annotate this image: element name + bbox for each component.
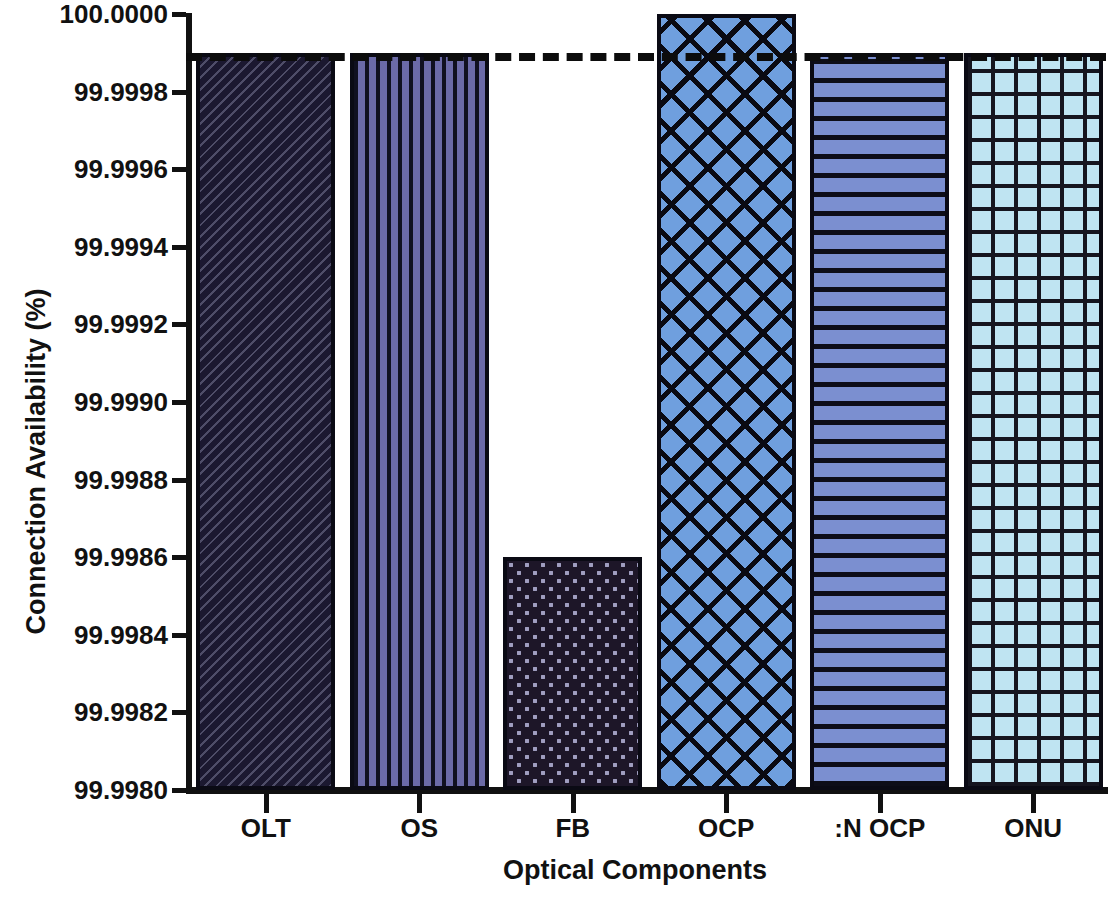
y-axis-tick-mark (172, 788, 186, 793)
x-axis-tick-label-n-ocp: :N OCP (834, 813, 925, 844)
x-axis-tick-mark (878, 794, 883, 813)
y-axis-tick-label: 99.9982 (0, 699, 168, 725)
y-axis-tick-label: 99.9984 (0, 622, 168, 648)
x-axis-tick-label-onu: ONU (1004, 813, 1062, 844)
x-axis-tick-label-fb: FB (555, 813, 590, 844)
y-axis-tick-label: 99.9994 (0, 234, 168, 260)
y-axis-tick-label: 99.9986 (0, 544, 168, 570)
y-axis-tick-label: 99.9990 (0, 389, 168, 415)
x-axis-title: Optical Components (170, 855, 1100, 886)
y-axis-tick-mark (172, 322, 186, 327)
y-axis-tick-mark (172, 400, 186, 405)
y-axis-tick-mark (172, 710, 186, 715)
bar-n-ocp[interactable] (810, 53, 949, 790)
x-axis-tick-label-os: OS (400, 813, 438, 844)
bar-os[interactable] (350, 53, 489, 790)
y-axis-tick-label: 99.9996 (0, 156, 168, 182)
y-axis-tick-mark (172, 12, 186, 17)
y-axis-tick-mark (172, 478, 186, 483)
x-axis-tick-label-olt: OLT (241, 813, 291, 844)
y-axis-tick-label: 99.9988 (0, 467, 168, 493)
x-axis-tick-label-ocp: OCP (698, 813, 754, 844)
plot-area (186, 12, 1106, 793)
y-axis-tick-mark (172, 90, 186, 95)
y-axis-tick-label: 99.9980 (0, 777, 168, 803)
x-axis-tick-mark (724, 794, 729, 813)
y-axis-tick-mark (172, 167, 186, 172)
x-axis-tick-mark (264, 794, 269, 813)
y-axis-tick-labels: 100.000099.999899.999699.999499.999299.9… (0, 0, 168, 898)
y-axis-tick-label: 99.9998 (0, 79, 168, 105)
bar-chart-figure: Connection Availability (%) 100.000099.9… (0, 0, 1119, 898)
bar-ocp[interactable] (657, 14, 796, 790)
y-axis-tick-label: 100.0000 (0, 1, 168, 27)
bar-onu[interactable] (964, 53, 1103, 790)
reference-line (186, 53, 1106, 61)
y-axis-tick-label: 99.9992 (0, 311, 168, 337)
x-axis-tick-mark (571, 794, 576, 813)
x-axis-tick-mark (1031, 794, 1036, 813)
x-axis-tick-mark (417, 794, 422, 813)
y-axis-tick-mark (172, 633, 186, 638)
bar-fb[interactable] (503, 557, 642, 790)
y-axis-tick-mark (172, 245, 186, 250)
bar-olt[interactable] (196, 53, 335, 790)
y-axis-tick-mark (172, 555, 186, 560)
